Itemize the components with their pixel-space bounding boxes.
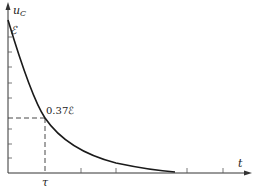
rc-discharge-diagram: uC ℰ 0.37ℰ τ t [0,0,254,195]
y-axis-arrow-icon [6,2,11,10]
y-ticks [8,37,12,158]
point-label: 0.37ℰ [46,105,74,116]
x-axis-arrow-icon [244,171,252,176]
initial-value-label: ℰ [10,24,18,37]
y-axis-label: uC [13,4,26,18]
tau-label: τ [42,176,49,189]
x-axis-label: t [238,157,243,170]
decay-curve [8,20,175,172]
